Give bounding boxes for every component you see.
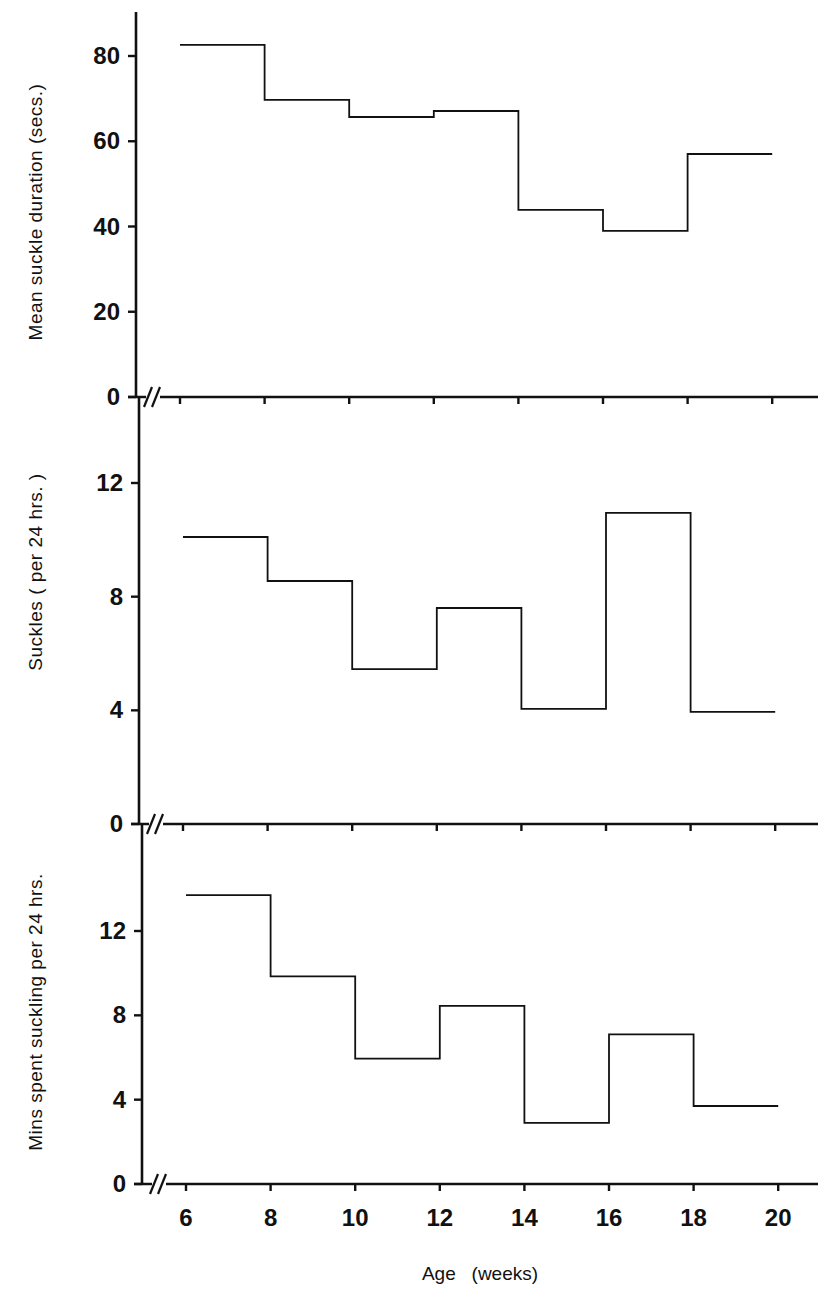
y-tick-label: 12 [96,469,123,496]
panel-mean-suckle-duration: 020406080 Mean suckle duration (secs.) [25,12,818,410]
axis-break-icon [144,387,160,407]
figure-svg: 020406080 Mean suckle duration (secs.) 0… [0,0,839,1299]
x-axis-label: Age (weeks) [422,1263,538,1284]
axis-break-icon [147,814,163,834]
plot-area: 04812 [99,825,818,1197]
y-tick-label: 4 [113,1086,127,1113]
x-tick-label: 16 [596,1204,623,1231]
cropped-caption-edge [0,1293,839,1299]
x-tick-label: 12 [426,1204,453,1231]
x-tick-label: 14 [511,1204,538,1231]
y-tick-label: 80 [93,42,120,69]
panel-suckles-per-24hrs: 04812 Suckles ( per 24 hrs. ) [25,398,818,837]
x-tick-label: 18 [680,1204,707,1231]
x-tick-label: 10 [342,1204,369,1231]
y-tick-label: 8 [113,1001,126,1028]
step-series-line [186,895,778,1123]
y-tick-label: 12 [99,917,126,944]
x-tick-label: 6 [179,1204,192,1231]
panel-mins-spent-suckling: 04812 Mins spent suckling per 24 hrs. [25,825,818,1197]
y-tick-label: 0 [110,810,123,837]
x-tick-label: 20 [765,1204,792,1231]
y-tick-label: 60 [93,127,120,154]
axis-break-icon [150,1174,166,1194]
y-tick-label: 4 [110,696,124,723]
y-tick-label: 20 [93,298,120,325]
step-series-line [180,45,772,231]
y-tick-label: 40 [93,213,120,240]
y-axis-label: Mins spent suckling per 24 hrs. [25,873,46,1150]
x-tick-labels: 68101214161820 [179,1204,791,1231]
plot-area: 020406080 [93,12,818,410]
y-axis-label: Suckles ( per 24 hrs. ) [25,473,46,670]
step-series-line [183,513,775,712]
x-tick-label: 8 [264,1204,277,1231]
y-tick-label: 0 [107,383,120,410]
y-tick-label: 8 [110,583,123,610]
y-axis-label: Mean suckle duration (secs.) [25,84,46,341]
y-tick-label: 0 [113,1170,126,1197]
plot-area: 04812 [96,398,818,837]
figure-stacked-step-charts: 020406080 Mean suckle duration (secs.) 0… [0,0,839,1299]
